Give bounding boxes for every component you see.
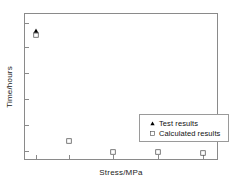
open-square-icon [145,131,159,136]
filled-triangle-icon [145,121,159,126]
legend-label-0: Test results [159,119,198,128]
legend-item-1[interactable]: Calculated results [145,128,224,138]
data-point-1-1 [66,138,72,144]
x-axis-title: Stress/MPa [24,168,218,177]
plot-area: Test resultsCalculated results [24,13,218,160]
y-axis-title: Time/hours [5,66,14,108]
chart-figure: Test resultsCalculated results Time/hour… [0,0,235,188]
data-point-1-4 [200,150,206,156]
chart-legend: Test resultsCalculated results [139,114,229,142]
legend-item-0[interactable]: Test results [145,118,224,128]
data-point-1-3 [155,149,161,155]
data-point-1-0 [33,32,39,38]
data-point-1-2 [110,149,116,155]
y-axis-title-wrapper: Time/hours [2,13,16,160]
legend-label-1: Calculated results [159,129,220,138]
